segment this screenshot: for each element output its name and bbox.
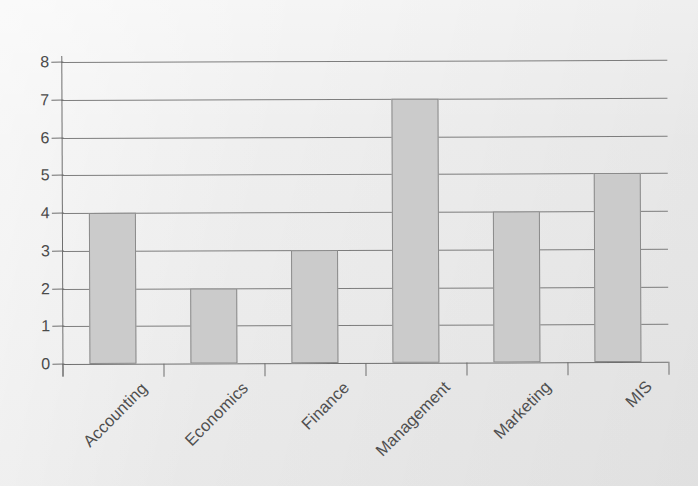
bar-series: [0, 0, 697, 1]
y-axis-ticks: 012345678: [0, 0, 697, 1]
x-axis-category-label: Finance: [233, 378, 352, 486]
x-axis-ticks: [0, 0, 697, 1]
bar: [391, 98, 440, 362]
x-axis-category-label: Management: [334, 378, 453, 486]
y-axis-tick-mark: [51, 99, 63, 100]
gridline: [62, 249, 668, 252]
x-axis-tick-mark: [567, 362, 568, 375]
x-axis-labels: AccountingEconomicsFinanceManagementMark…: [0, 0, 697, 1]
x-axis-tick-mark: [163, 364, 164, 377]
y-axis-tick-label: 3: [0, 242, 50, 260]
x-axis-tick-mark: [668, 362, 669, 375]
y-axis-tick-mark: [52, 175, 64, 176]
y-axis-tick-mark: [52, 288, 64, 289]
x-axis-category-label: Economics: [132, 378, 251, 486]
y-axis-tick-mark: [52, 213, 64, 214]
gridline: [62, 324, 668, 327]
x-axis-tick-mark: [62, 364, 63, 377]
gridline: [61, 98, 667, 101]
y-axis-tick-label: 7: [0, 91, 49, 109]
y-axis-tick-label: 4: [0, 204, 50, 222]
x-axis-tick-mark: [264, 363, 265, 376]
y-axis-tick-label: 5: [0, 166, 50, 184]
bar: [89, 213, 137, 364]
y-axis-tick-mark: [52, 326, 64, 327]
bar: [593, 173, 641, 362]
gridline: [62, 173, 668, 176]
bar-chart: 012345678 AccountingEconomicsFinanceMana…: [0, 0, 698, 486]
plot-area: [61, 60, 668, 364]
y-axis-tick-mark: [52, 137, 64, 138]
y-axis-tick-label: 8: [0, 53, 49, 71]
y-axis-tick-mark: [51, 62, 63, 63]
y-axis-tick-label: 2: [0, 280, 50, 298]
gridline: [62, 135, 668, 138]
x-axis-category-label: MIS: [536, 377, 655, 486]
y-axis-tick-label: 0: [0, 355, 50, 373]
bar: [493, 211, 541, 362]
x-axis-tick-mark: [466, 363, 467, 376]
x-axis-category-label: Marketing: [435, 377, 554, 486]
bar: [190, 288, 238, 364]
x-axis-category-label: Accounting: [31, 379, 150, 486]
bar: [291, 250, 339, 363]
gridline: [62, 286, 668, 289]
y-axis-tick-label: 6: [0, 129, 50, 147]
y-axis-tick-label: 1: [0, 317, 50, 335]
x-axis-tick-mark: [365, 363, 366, 376]
y-axis-tick-mark: [52, 250, 64, 251]
gridline: [61, 60, 667, 63]
gridline: [62, 211, 668, 214]
